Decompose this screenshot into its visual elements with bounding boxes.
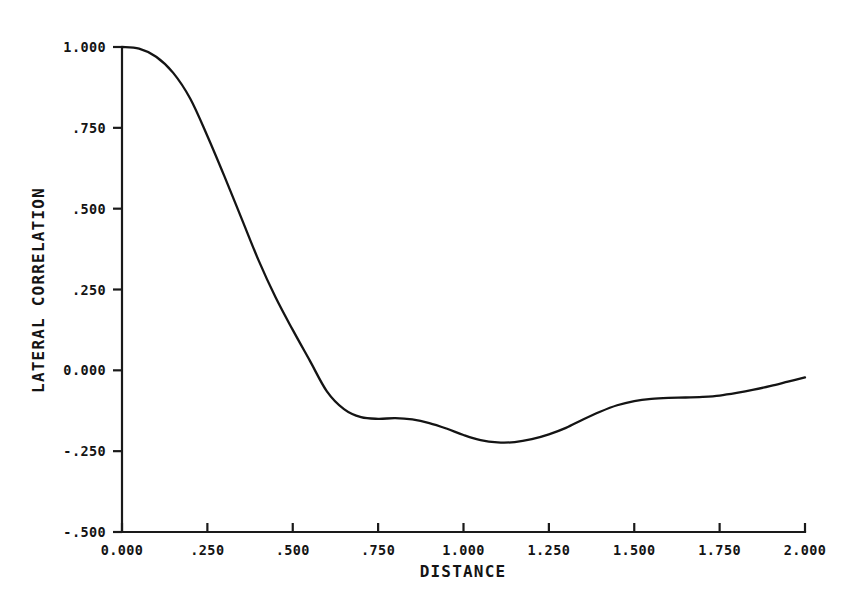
x-tick-label: 2.000 bbox=[784, 542, 827, 558]
x-tick-label: 1.500 bbox=[613, 542, 656, 558]
x-tick-label: 0.000 bbox=[101, 542, 144, 558]
x-axis-tick-labels: 0.000.250.500.7501.0001.2501.5001.7502.0… bbox=[101, 542, 827, 558]
x-tick-label: 1.250 bbox=[528, 542, 571, 558]
y-tick-label: 0.000 bbox=[63, 362, 106, 378]
chart-figure: 1.000.750.500.2500.000-.250-.500 0.000.2… bbox=[0, 0, 866, 598]
x-axis-title: DISTANCE bbox=[420, 562, 507, 581]
x-tick-label: .250 bbox=[190, 542, 224, 558]
x-tick-label: 1.000 bbox=[442, 542, 485, 558]
y-tick-label: .750 bbox=[72, 120, 106, 136]
y-tick-label: .250 bbox=[72, 282, 106, 298]
data-series-line bbox=[122, 47, 805, 443]
x-axis-tick-marks bbox=[122, 523, 805, 532]
y-tick-label: .500 bbox=[72, 201, 106, 217]
y-axis-tick-labels: 1.000.750.500.2500.000-.250-.500 bbox=[63, 39, 106, 540]
x-tick-label: .500 bbox=[276, 542, 310, 558]
y-axis-title: LATERAL CORRELATION bbox=[29, 187, 48, 393]
y-tick-label: 1.000 bbox=[63, 39, 106, 55]
x-tick-label: 1.750 bbox=[698, 542, 741, 558]
y-axis-tick-marks bbox=[113, 47, 122, 532]
x-tick-label: .750 bbox=[361, 542, 395, 558]
y-tick-label: -.250 bbox=[63, 443, 106, 459]
line-chart-plot: 1.000.750.500.2500.000-.250-.500 0.000.2… bbox=[0, 0, 866, 598]
y-tick-label: -.500 bbox=[63, 524, 106, 540]
